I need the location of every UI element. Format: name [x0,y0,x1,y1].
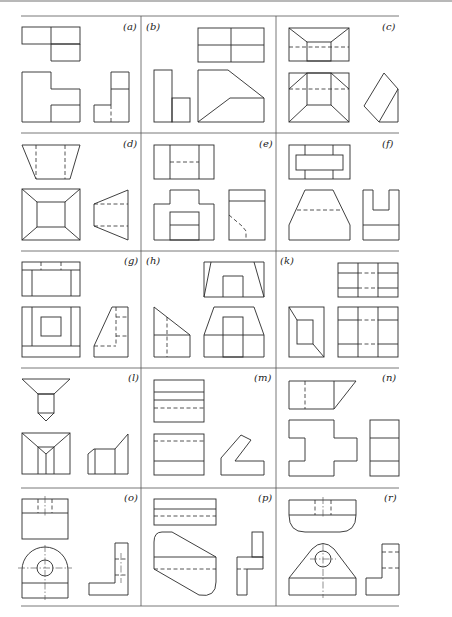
panel-label-l: (l) [128,372,139,383]
panel-d-drawing [22,145,128,240]
panel-r-drawing [289,497,399,598]
panel-l-drawing [22,379,128,474]
panel-a-drawing [22,27,129,122]
panel-b-drawing [154,28,264,122]
panel-h-drawing [154,262,264,357]
panel-label-n: (n) [382,372,396,383]
panel-label-a: (a) [123,21,137,32]
panel-c-drawing [289,28,398,122]
panel-label-k: (k) [280,255,294,266]
panel-o-drawing [18,496,128,600]
panel-e-drawing [154,145,265,240]
panel-label-r: (r) [384,492,397,503]
panel-label-g: (g) [124,255,138,266]
panel-label-e: (e) [259,138,273,149]
panel-label-h: (h) [146,255,160,266]
drawing-sheet: (a) (b) (c) (d) (e) (f) (g) (h) (k) (l) … [0,0,452,617]
panel-label-b: (b) [146,21,160,32]
panel-k-drawing [289,263,398,357]
panel-label-d: (d) [123,138,137,149]
panel-label-f: (f) [382,138,394,149]
panel-g-drawing [22,262,128,357]
panel-n-drawing [289,381,399,476]
panel-p-drawing [154,499,263,595]
panel-label-m: (m) [254,372,271,383]
panel-label-o: (o) [124,492,138,503]
panel-label-p: (p) [258,492,272,503]
panel-m-drawing [154,380,264,475]
grid-lines [21,16,399,606]
panel-f-drawing [289,145,399,240]
projection-grid [0,0,452,617]
panel-label-c: (c) [382,21,395,32]
